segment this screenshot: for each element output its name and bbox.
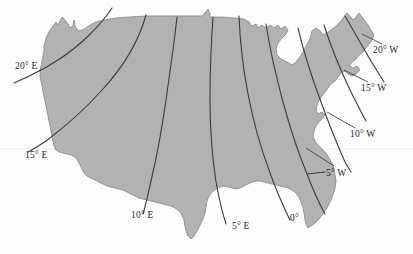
isogonic-label-text-10E: 10° E [131,211,153,221]
isogonic-label-text-20W: 20° W [373,46,398,56]
usa-landmass-group [40,9,374,239]
leader-line-10W [327,112,355,128]
map-svg [0,0,413,254]
isogonic-label-text-5W: 5° W [326,169,347,179]
isogonic-label-text-0: 0° [290,214,299,224]
isogonic-label-text-15W: 15° W [361,84,386,94]
magnetic-declination-figure: 20° E 15° E 10° E 5° E 0° 5° W 10° W 15°… [0,0,413,254]
isogonic-label-text-20E: 20° E [15,62,37,72]
isogonic-label-text-5E: 5° E [232,222,250,232]
usa-mainland-shape [40,9,374,239]
isogonic-label-text-10W: 10° W [350,130,375,140]
isogonic-label-text-15E: 15° E [25,151,47,161]
